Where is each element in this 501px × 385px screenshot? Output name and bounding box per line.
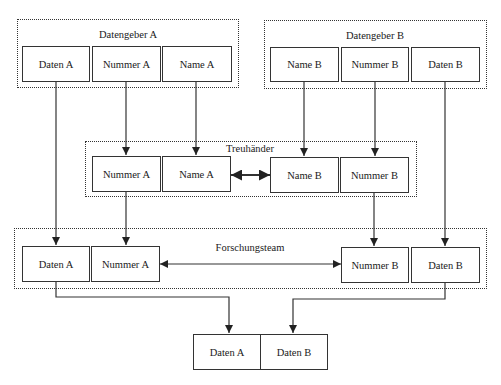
edge-result-daten-b	[293, 283, 445, 333]
connector-layer	[0, 0, 501, 385]
diagram-canvas: Datengeber A Daten A Nummer A Name A Dat…	[0, 0, 501, 385]
edge-result-daten-a	[56, 282, 229, 333]
